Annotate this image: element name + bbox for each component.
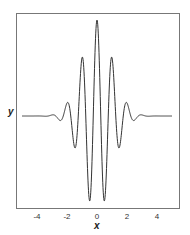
x-tick-label: 4 (155, 212, 160, 221)
x-axis-label: x (93, 220, 100, 231)
x-tick-label: -4 (33, 212, 41, 221)
x-tick-label: 2 (125, 212, 130, 221)
x-tick-label: -2 (63, 212, 71, 221)
y-axis-label: y (7, 106, 14, 117)
plot-frame (17, 14, 180, 209)
chart: -4-2024 y x (0, 0, 190, 235)
